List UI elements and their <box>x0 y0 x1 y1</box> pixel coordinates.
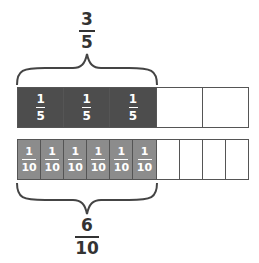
bottom-fraction-label: 6 10 <box>72 217 102 257</box>
cell-denominator: 10 <box>68 162 83 173</box>
tenth-cell: 110 <box>64 140 87 179</box>
tenth-cell: 110 <box>87 140 110 179</box>
fifth-cell: 15 <box>18 88 64 127</box>
cell-numerator: 1 <box>36 93 44 105</box>
fifth-cell-empty <box>203 88 248 127</box>
bottom-fraction-numerator: 6 <box>81 217 93 234</box>
cell-denominator: 5 <box>129 110 137 122</box>
tenth-cell-empty <box>203 140 226 179</box>
cell-denominator: 10 <box>91 162 106 173</box>
fifths-strip: 15 15 15 <box>17 87 249 128</box>
cell-numerator: 1 <box>48 146 56 157</box>
top-brace-icon <box>15 52 159 86</box>
cell-numerator: 1 <box>129 93 137 105</box>
cell-denominator: 10 <box>137 162 152 173</box>
tenth-cell: 110 <box>110 140 133 179</box>
cell-denominator: 10 <box>114 162 129 173</box>
cell-denominator: 5 <box>83 110 91 122</box>
tenth-cell-empty <box>226 140 248 179</box>
bottom-fraction-denominator: 10 <box>75 240 99 257</box>
fifth-cell: 15 <box>110 88 156 127</box>
cell-numerator: 1 <box>95 146 103 157</box>
tenth-cell: 110 <box>41 140 64 179</box>
tenths-strip: 110 110 110 110 110 110 <box>17 139 249 180</box>
cell-denominator: 10 <box>21 162 36 173</box>
fifth-cell-empty <box>157 88 203 127</box>
cell-denominator: 5 <box>36 110 44 122</box>
tenth-cell-empty <box>180 140 203 179</box>
bottom-brace-icon <box>15 182 159 216</box>
fifth-cell: 15 <box>64 88 110 127</box>
cell-numerator: 1 <box>83 93 91 105</box>
cell-numerator: 1 <box>118 146 126 157</box>
cell-numerator: 1 <box>25 146 33 157</box>
top-fraction-numerator: 3 <box>81 11 93 28</box>
top-fraction-label: 3 5 <box>73 11 101 51</box>
cell-numerator: 1 <box>71 146 79 157</box>
cell-denominator: 10 <box>44 162 59 173</box>
cell-numerator: 1 <box>141 146 149 157</box>
tenth-cell: 110 <box>18 140 41 179</box>
top-fraction-denominator: 5 <box>81 34 93 51</box>
tenth-cell-empty <box>157 140 180 179</box>
tenth-cell: 110 <box>133 140 156 179</box>
